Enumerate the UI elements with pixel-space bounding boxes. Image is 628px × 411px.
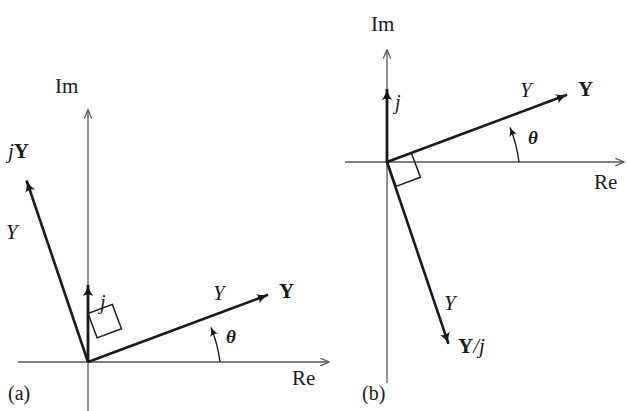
panel-b-Yoverj-slash-j-part: /j [473, 334, 485, 358]
panel-b-vector-Y [387, 95, 567, 162]
panel-b-vector-Y-over-j [387, 162, 449, 344]
panel-a-vector-jY-magnitude-label: Y [6, 222, 18, 243]
panel-b-theta-label: θ [528, 128, 538, 147]
panel-a-vector-jY [27, 181, 88, 363]
panel-a-vector-jY-label: jY [8, 141, 29, 162]
panel-b-vector-j-label: j [395, 92, 401, 112]
panel-b-real-axis-label: Re [594, 172, 617, 193]
panel-a-theta-label: θ [226, 327, 236, 346]
panel-b-vector-Y-magnitude-label: Y [520, 80, 532, 101]
panel-b-vector-Y-over-j-magnitude-label: Y [444, 293, 456, 314]
panel-a-vector-Y-magnitude-label: Y [213, 283, 225, 304]
panel-b-right-angle-marker [387, 153, 420, 186]
panel-a-imaginary-axis-label: Im [55, 76, 78, 97]
complex-plane-figure: Im Re Y Y jY Y j θ (a) Im Re Y Y Y/j Y j… [0, 0, 628, 411]
panel-a-real-axis-label: Re [292, 368, 315, 389]
panel-b-vector-Y-label: Y [578, 79, 593, 100]
panel-b-theta-arc [510, 128, 519, 163]
panel-b-caption: (b) [362, 383, 385, 403]
panel-a-vector-Y-label: Y [279, 281, 294, 302]
panel-a-caption: (a) [8, 383, 30, 403]
panel-a-group [18, 110, 329, 411]
panel-b-vector-Y-over-j-label: Y/j [458, 336, 485, 357]
panel-a-vector-Y [88, 295, 268, 362]
panel-a-vector-j-label: j [100, 292, 106, 312]
panel-b-Yoverj-Y-part: Y [458, 334, 473, 358]
panel-b-imaginary-axis-label: Im [371, 14, 394, 35]
panel-a-theta-arc [211, 328, 220, 363]
vector-diagram-canvas [0, 0, 628, 411]
panel-a-jY-Y-part: Y [14, 139, 29, 163]
